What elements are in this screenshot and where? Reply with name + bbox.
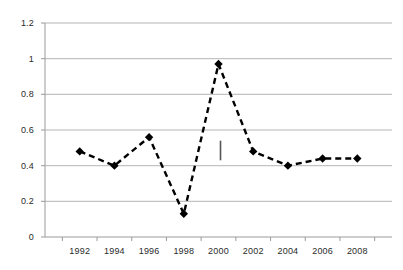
- x-axis-label-2008: 2008: [340, 246, 374, 256]
- data-point-marker: [76, 147, 84, 155]
- data-point-marker: [214, 60, 222, 68]
- x-axis-label-2000: 2000: [202, 246, 236, 256]
- gridlines: [45, 23, 392, 201]
- data-point-marker: [284, 161, 292, 169]
- data-point-marker: [180, 210, 188, 218]
- y-axis-ticks: [41, 23, 45, 237]
- x-axis-label-1998: 1998: [167, 246, 201, 256]
- data-point-marker: [353, 154, 361, 162]
- y-axis-label-0.8: 0.8: [8, 89, 34, 99]
- data-point-marker: [145, 133, 153, 141]
- x-axis-ticks: [62, 237, 374, 241]
- data-point-marker: [249, 147, 257, 155]
- y-axis-label-0.2: 0.2: [8, 196, 34, 206]
- chart-container: 1.2 1 0.8 0.6 0.4 0.2 0 1992199419961998…: [0, 0, 403, 270]
- y-axis-label-1.2: 1.2: [8, 18, 34, 28]
- y-axis-label-0.4: 0.4: [8, 161, 34, 171]
- data-point-marker: [318, 154, 326, 162]
- series-1-markers: [76, 60, 362, 218]
- y-axis-label-0: 0: [8, 232, 34, 242]
- x-axis-label-2002: 2002: [236, 246, 270, 256]
- series-1-line: [80, 64, 358, 214]
- x-axis-label-1994: 1994: [97, 246, 131, 256]
- x-axis-label-1996: 1996: [132, 246, 166, 256]
- x-axis-label-2004: 2004: [271, 246, 305, 256]
- x-axis-label-1992: 1992: [63, 246, 97, 256]
- line-chart-plot: [0, 0, 403, 270]
- x-axis-label-2006: 2006: [306, 246, 340, 256]
- y-axis-label-1: 1: [8, 54, 34, 64]
- y-axis-label-0.6: 0.6: [8, 125, 34, 135]
